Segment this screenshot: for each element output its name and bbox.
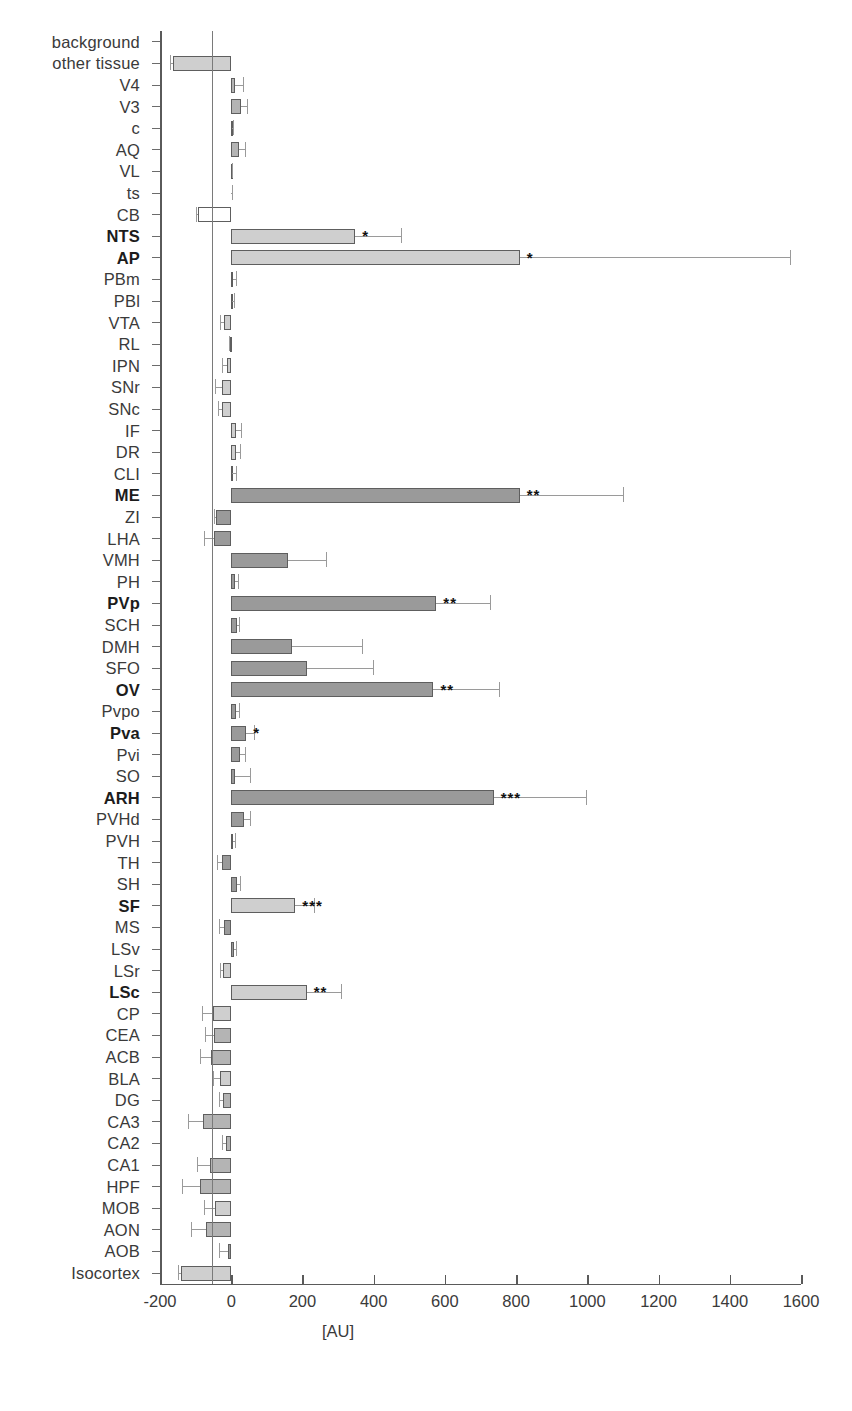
y-axis-tick <box>152 279 160 280</box>
x-axis-tick-label: 200 <box>262 1292 342 1311</box>
y-axis-tick <box>152 754 160 755</box>
error-bar-cap <box>219 919 220 934</box>
error-bar-cap <box>229 336 230 351</box>
x-axis-tick-label: 1000 <box>547 1292 627 1311</box>
error-bar-cap <box>236 271 237 286</box>
error-bar <box>235 85 243 86</box>
error-bar <box>288 560 325 561</box>
y-axis-tick <box>152 517 160 518</box>
bar-sfo <box>231 661 306 676</box>
bar-arh <box>231 790 493 805</box>
y-axis-tick <box>152 538 160 539</box>
y-axis-tick <box>152 409 160 410</box>
y-axis-tick <box>152 193 160 194</box>
error-bar-cap <box>235 833 236 848</box>
bar-acb <box>211 1050 231 1065</box>
error-bar-cap <box>247 99 248 114</box>
y-axis-tick <box>152 797 160 798</box>
y-axis-tick <box>152 1057 160 1058</box>
bar-pva <box>231 726 246 741</box>
error-bar-cap <box>220 963 221 978</box>
y-axis-tick <box>152 63 160 64</box>
error-bar-cap <box>200 1049 201 1064</box>
x-axis-tick <box>160 1275 162 1284</box>
y-axis-tick <box>152 1229 160 1230</box>
error-bar-cap <box>232 185 233 200</box>
bar-lsr <box>223 963 231 978</box>
error-bar-cap <box>218 401 219 416</box>
error-bar-cap <box>232 163 233 178</box>
error-bar-cap <box>236 466 237 481</box>
error-bar-cap <box>197 1157 198 1172</box>
bar-cp <box>213 1006 231 1021</box>
error-bar-cap <box>202 1006 203 1021</box>
error-bar-cap <box>170 55 171 70</box>
bar-ms <box>224 920 231 935</box>
error-bar-cap <box>204 1200 205 1215</box>
x-axis-tick <box>730 1275 732 1284</box>
y-axis-tick <box>152 1273 160 1274</box>
error-bar-cap <box>219 1243 220 1258</box>
bar-zi <box>216 510 231 525</box>
y-axis-tick <box>152 1121 160 1122</box>
y-axis-tick <box>152 236 160 237</box>
error-bar-cap <box>238 574 239 589</box>
bar-snc <box>222 402 231 417</box>
y-axis-tick <box>152 495 160 496</box>
bar-ov <box>231 682 433 697</box>
error-bar-cap <box>236 941 237 956</box>
y-axis-tick <box>152 949 160 950</box>
bar-pvp <box>231 596 436 611</box>
error-bar <box>204 1208 215 1209</box>
error-bar-cap <box>219 1092 220 1107</box>
error-bar-cap <box>241 423 242 438</box>
bar-dmh <box>231 639 292 654</box>
y-axis-tick <box>152 171 160 172</box>
y-axis-tick <box>152 149 160 150</box>
error-bar-cap <box>233 120 234 135</box>
x-axis-tick-label: 1600 <box>761 1292 841 1311</box>
y-axis-tick <box>152 1035 160 1036</box>
error-bar-cap <box>182 1179 183 1194</box>
error-bar-cap <box>240 444 241 459</box>
bar-aq <box>231 142 239 157</box>
bar-ap <box>231 250 519 265</box>
bar-ipn <box>227 358 232 373</box>
error-bar-cap <box>245 747 246 762</box>
y-axis-tick <box>152 257 160 258</box>
error-bar <box>188 1121 203 1122</box>
y-axis-tick <box>152 841 160 842</box>
error-bar-cap <box>239 703 240 718</box>
bar-pvhd <box>231 812 244 827</box>
error-bar-cap <box>623 487 624 502</box>
y-axis-tick <box>152 905 160 906</box>
x-axis-tick-label: 800 <box>476 1292 556 1311</box>
y-axis-tick <box>152 473 160 474</box>
y-axis-tick <box>152 344 160 345</box>
x-axis-tick-label: 1200 <box>619 1292 699 1311</box>
y-axis-tick <box>152 106 160 107</box>
x-axis-tick-label: 600 <box>405 1292 485 1311</box>
error-bar-cap <box>341 984 342 999</box>
error-bar-cap <box>401 228 402 243</box>
y-axis-tick <box>152 884 160 885</box>
bar-sf <box>231 898 295 913</box>
y-axis-tick <box>152 387 160 388</box>
error-bar-cap <box>326 552 327 567</box>
bar-v3 <box>231 99 241 114</box>
y-axis-tick <box>152 733 160 734</box>
y-axis-tick <box>152 41 160 42</box>
error-bar-cap <box>222 358 223 373</box>
error-bar <box>520 257 791 258</box>
error-bar-cap <box>205 1027 206 1042</box>
bar-ca1 <box>210 1158 231 1173</box>
y-axis-tick <box>152 430 160 431</box>
bar-rl <box>230 337 232 352</box>
error-bar-cap <box>490 595 491 610</box>
error-bar <box>182 1186 200 1187</box>
error-bar-cap <box>188 1114 189 1129</box>
error-bar-cap <box>240 876 241 891</box>
error-bar-cap <box>217 855 218 870</box>
chart-plot-area: backgroundother tissueV4V3cAQVLtsCBNTS*A… <box>0 0 852 1411</box>
y-axis-tick <box>152 603 160 604</box>
